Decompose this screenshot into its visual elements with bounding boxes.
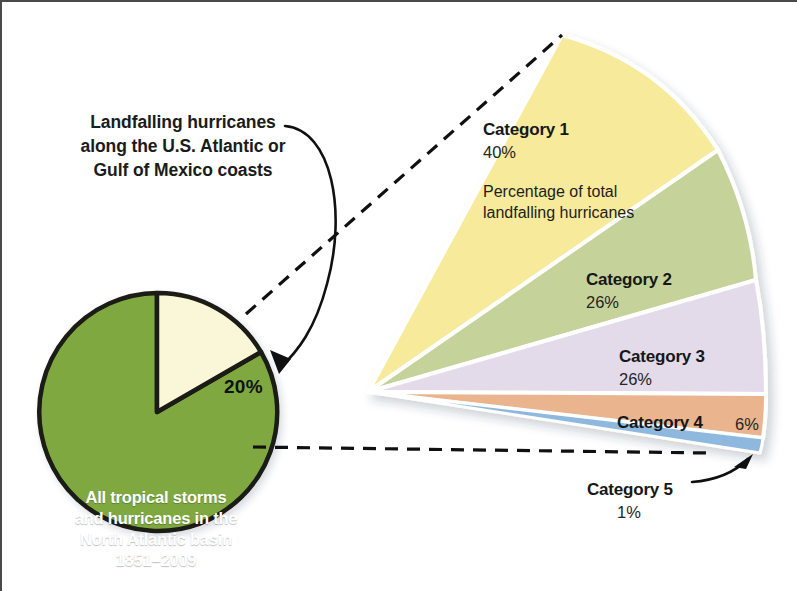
category-1-note: Percentage of total landfalling hurrican…: [483, 181, 643, 223]
category-5-leader-arrow: [692, 454, 753, 482]
fan-slice-category-4: [368, 392, 766, 438]
pie-main-label: All tropical storms and hurricanes in th…: [32, 487, 280, 571]
fan-slice-category-5: [368, 392, 763, 453]
infographic-frame: Landfalling hurricanes along the U.S. At…: [0, 0, 797, 591]
category-2-title: Category 2: [586, 270, 672, 290]
category-1-percentage: 40%: [483, 143, 516, 162]
category-4-percentage: 6%: [735, 415, 759, 434]
category-2-percentage: 26%: [586, 293, 619, 312]
exploded-fan-group: [368, 35, 766, 453]
callout-label: Landfalling hurricanes along the U.S. At…: [54, 110, 312, 182]
category-1-title: Category 1: [483, 120, 569, 140]
category-3-title: Category 3: [619, 347, 705, 367]
pie-slice-percentage-label: 20%: [224, 376, 263, 398]
connector-dashed-lower: [253, 447, 709, 453]
fan-slice-category-3: [368, 280, 766, 394]
category-5-title: Category 5: [587, 480, 673, 500]
category-5-percentage: 1%: [617, 503, 641, 522]
category-4-title: Category 4: [617, 413, 703, 433]
category-3-percentage: 26%: [619, 370, 652, 389]
